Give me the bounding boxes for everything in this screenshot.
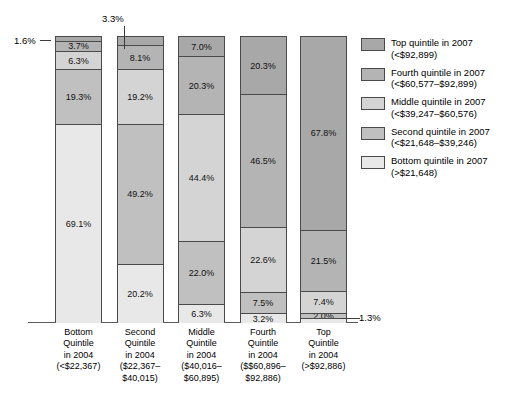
segment-value-label: 3.7%	[68, 42, 89, 52]
chart-root: 1.6%3.7%6.3%19.3%69.1%3.3%8.1%19.2%49.2%…	[0, 0, 508, 400]
bar-segment[interactable]: 7.0%	[179, 37, 224, 57]
legend-middle-quintile[interactable]: Middle quintile in 2007(<$39,247–$60,576…	[361, 96, 507, 119]
legend-label-line1: Top quintile in 2007	[391, 37, 473, 49]
x-axis-label-line: in 2004	[288, 350, 360, 361]
callout-1-6-label: 1.6%	[14, 35, 36, 46]
segment-value-label: 21.5%	[311, 256, 337, 266]
legend-swatch-icon	[361, 68, 385, 81]
bar-segment[interactable]: 46.5%	[241, 95, 286, 228]
bar-segment[interactable]: 6.3%	[56, 52, 101, 70]
callout-1-3-leader-line	[341, 318, 360, 319]
legend-label-line2: (<$21,648–$39,246)	[391, 137, 490, 149]
stacked-bar-second-quintile-2004[interactable]: 3.3%8.1%19.2%49.2%20.2%	[117, 36, 164, 322]
stacked-bar-fourth-quintile-2004[interactable]: 20.3%46.5%22.6%7.5%3.2%	[240, 36, 287, 322]
legend-top-quintile[interactable]: Top quintile in 2007(<$92,899)	[361, 37, 507, 60]
bar-segment[interactable]: 20.3%	[179, 57, 224, 115]
segment-value-label: 20.3%	[250, 61, 276, 71]
callout-3-3-label: 3.3%	[102, 13, 124, 24]
bar-segment[interactable]: 20.2%	[118, 265, 163, 323]
bar-segment[interactable]: 20.3%	[241, 37, 286, 95]
plot-area: 1.6%3.7%6.3%19.3%69.1%3.3%8.1%19.2%49.2%…	[0, 0, 360, 400]
legend-second-quintile[interactable]: Second quintile in 2007(<$21,648–$39,246…	[361, 126, 507, 149]
bar-segment[interactable]: 8.1%	[118, 46, 163, 69]
legend-label: Fourth quintile in 2007(<$60,577–$92,899…	[391, 67, 485, 90]
legend-fourth-quintile[interactable]: Fourth quintile in 2007(<$60,577–$92,899…	[361, 67, 507, 90]
legend-label-line1: Bottom quintile in 2007	[391, 155, 488, 167]
legend-label-line2: (<$60,577–$92,899)	[391, 78, 485, 90]
bar-segment[interactable]: 7.4%	[301, 292, 346, 313]
segment-value-label: 7.4%	[313, 297, 334, 307]
stacked-bar-middle-quintile-2004[interactable]: 7.0%20.3%44.4%22.0%6.3%	[178, 36, 225, 322]
legend-label: Second quintile in 2007(<$21,648–$39,246…	[391, 126, 490, 149]
x-axis-label-line: $92,886)	[227, 373, 299, 384]
x-axis-label-line: (>$92,886)	[288, 361, 360, 372]
segment-value-label: 3.2%	[253, 314, 274, 323]
bar-segment[interactable]: 22.0%	[179, 242, 224, 305]
segment-value-label: 6.3%	[191, 309, 212, 319]
bar-segment[interactable]: 7.5%	[241, 293, 286, 314]
legend-label-line2: (>$21,648)	[391, 167, 488, 179]
x-axis-label-line: Top	[288, 327, 360, 338]
legend-bottom-quintile[interactable]: Bottom quintile in 2007(>$21,648)	[361, 155, 507, 178]
segment-value-label: 7.5%	[253, 298, 274, 308]
segment-value-label: 19.2%	[127, 92, 153, 102]
callout-3-3-leader-line	[124, 26, 125, 49]
segment-value-label: 19.3%	[66, 92, 92, 102]
bar-segment[interactable]: 69.1%	[56, 125, 101, 323]
bar-segment[interactable]: 19.3%	[56, 70, 101, 125]
bar-segment[interactable]: 6.3%	[179, 305, 224, 323]
bar-segment[interactable]: 3.7%	[56, 42, 101, 53]
legend-label: Top quintile in 2007(<$92,899)	[391, 37, 473, 60]
legend-label: Bottom quintile in 2007(>$21,648)	[391, 155, 488, 178]
segment-value-label: 8.1%	[130, 53, 151, 63]
segment-value-label: 69.1%	[66, 219, 92, 229]
bar-segment[interactable]: 19.2%	[118, 70, 163, 125]
segment-value-label: 46.5%	[250, 156, 276, 166]
bar-segment[interactable]: 21.5%	[301, 231, 346, 292]
legend-label-line1: Second quintile in 2007	[391, 126, 490, 138]
legend-swatch-icon	[361, 127, 385, 140]
legend-label-line1: Fourth quintile in 2007	[391, 67, 485, 79]
x-axis-label-line: Quintile	[288, 338, 360, 349]
bar-segment[interactable]: 3.2%	[241, 314, 286, 323]
segment-value-label: 49.2%	[127, 189, 153, 199]
legend-swatch-icon	[361, 38, 385, 51]
stacked-bar-bottom-quintile-2004[interactable]: 1.6%3.7%6.3%19.3%69.1%	[55, 36, 102, 322]
segment-value-label: 20.3%	[189, 81, 215, 91]
bar-segment[interactable]: 1.3%	[301, 319, 346, 323]
legend-swatch-icon	[361, 97, 385, 110]
bar-segment[interactable]: 44.4%	[179, 115, 224, 242]
legend-label-line1: Middle quintile in 2007	[391, 96, 486, 108]
stacked-bar-top-quintile-2004[interactable]: 67.8%21.5%7.4%2.0%1.3%	[300, 36, 347, 322]
legend-swatch-icon	[361, 156, 385, 169]
callout-1-6-leader-line	[40, 40, 51, 41]
segment-value-label: 6.3%	[68, 56, 89, 66]
segment-value-label: 22.0%	[189, 268, 215, 278]
legend-label-line2: (<$92,899)	[391, 49, 473, 61]
x-axis-label: TopQuintilein 2004(>$92,886)	[288, 327, 360, 373]
segment-value-label: 7.0%	[191, 42, 212, 52]
bar-segment[interactable]: 49.2%	[118, 125, 163, 266]
bar-segment[interactable]: 67.8%	[301, 37, 346, 231]
legend-label-line2: (<$39,247–$60,576)	[391, 108, 486, 120]
segment-value-label: 67.8%	[311, 128, 337, 138]
legend: Top quintile in 2007(<$92,899)Fourth qui…	[361, 37, 507, 185]
segment-value-label: 44.4%	[189, 173, 215, 183]
callout-1-3-label: 1.3%	[359, 312, 381, 323]
segment-value-label: 20.2%	[127, 289, 153, 299]
bar-segment[interactable]: 22.6%	[241, 228, 286, 293]
legend-label: Middle quintile in 2007(<$39,247–$60,576…	[391, 96, 486, 119]
segment-value-label: 22.6%	[250, 255, 276, 265]
